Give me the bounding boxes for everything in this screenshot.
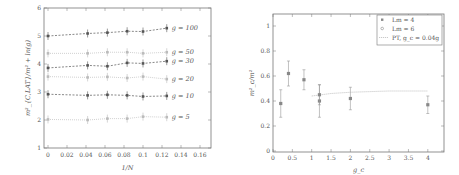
legend-marker-filled-square bbox=[381, 19, 383, 21]
y-tick-label: 0.2 bbox=[260, 122, 270, 129]
x-tick-label: 2.5 bbox=[365, 154, 375, 161]
right-chart: 00.20.40.60.8100.511.522.533.54g_cm²_c/m… bbox=[0, 0, 459, 175]
y-tick-label: 0.8 bbox=[260, 47, 270, 54]
x-tick-label: 1.5 bbox=[326, 154, 336, 161]
y-tick-label: 1 bbox=[266, 22, 270, 29]
y-axis-label: m²_c/m² bbox=[248, 69, 256, 96]
data-marker bbox=[287, 72, 290, 75]
data-marker bbox=[426, 103, 429, 106]
legend: Lm = 4Lm = 6PT, g_c = 0.04g bbox=[377, 15, 442, 45]
x-tick-label: 3 bbox=[387, 154, 391, 161]
data-marker bbox=[279, 102, 282, 105]
legend-label: Lm = 4 bbox=[392, 16, 415, 23]
x-tick-label: 1 bbox=[310, 154, 314, 161]
data-marker bbox=[302, 78, 305, 81]
x-tick-label: 3.5 bbox=[404, 154, 414, 161]
legend-label: PT, g_c = 0.04g bbox=[392, 34, 439, 42]
x-tick-label: 4 bbox=[426, 154, 430, 161]
x-tick-label: 0 bbox=[271, 154, 275, 161]
x-tick-label: 0.5 bbox=[288, 154, 298, 161]
y-tick-label: 0.4 bbox=[260, 97, 270, 104]
x-axis-label: g_c bbox=[353, 166, 364, 174]
y-tick-label: 0.6 bbox=[260, 72, 270, 79]
data-marker bbox=[318, 93, 321, 96]
legend-label: Lm = 6 bbox=[392, 25, 415, 32]
pt-curve bbox=[312, 91, 428, 96]
data-marker bbox=[349, 97, 352, 100]
x-tick-label: 2 bbox=[348, 154, 352, 161]
y-tick-label: 0 bbox=[266, 147, 270, 154]
